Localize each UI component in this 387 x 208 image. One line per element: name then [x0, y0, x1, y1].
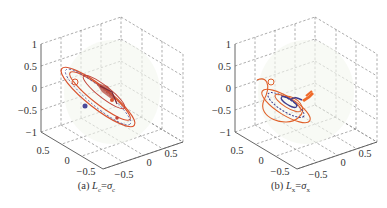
- svg-text:0: 0: [226, 83, 231, 94]
- svg-text:−0.5: −0.5: [270, 166, 289, 177]
- svg-text:0: 0: [340, 157, 345, 168]
- x-axis-ticks: 0.5 0 −0.5: [36, 145, 95, 177]
- y-axis-ticks: −0.5 0 0.5: [308, 148, 371, 180]
- svg-text:1: 1: [32, 39, 37, 50]
- x-axis-ticks: 0.5 0 −0.5: [230, 145, 289, 177]
- svg-text:−0.5: −0.5: [18, 105, 37, 116]
- svg-text:0.5: 0.5: [164, 148, 177, 159]
- svg-text:0.5: 0.5: [230, 145, 243, 156]
- z-axis-ticks: 1 0.5 0 −0.5 −1: [18, 39, 37, 138]
- svg-text:−0.5: −0.5: [308, 169, 327, 180]
- plot-3d-a: 1 0.5 0 −0.5 −1 0.5 0 −0.5 −0.5 0 0.5: [0, 0, 193, 180]
- z-axis-ticks: 1 0.5 0 −0.5 −1: [212, 39, 231, 138]
- svg-text:0.5: 0.5: [36, 145, 49, 156]
- caption-a: (a) Lc=σc: [0, 180, 193, 194]
- svg-text:−1: −1: [26, 127, 37, 138]
- sphere-shade: [258, 40, 354, 144]
- svg-text:−0.5: −0.5: [76, 166, 95, 177]
- svg-text:0: 0: [146, 157, 151, 168]
- svg-text:0: 0: [258, 155, 263, 166]
- svg-text:1: 1: [226, 39, 231, 50]
- svg-text:−0.5: −0.5: [114, 169, 133, 180]
- svg-text:0: 0: [64, 155, 69, 166]
- svg-text:0.5: 0.5: [218, 61, 231, 72]
- chart-panel-a: 1 0.5 0 −0.5 −1 0.5 0 −0.5 −0.5 0 0.5 (a…: [0, 0, 193, 208]
- svg-text:0.5: 0.5: [24, 61, 37, 72]
- svg-text:−0.5: −0.5: [212, 105, 231, 116]
- svg-text:−1: −1: [220, 127, 231, 138]
- svg-text:0.5: 0.5: [358, 148, 371, 159]
- plot-3d-b: 1 0.5 0 −0.5 −1 0.5 0 −0.5 −0.5 0 0.5: [194, 0, 387, 180]
- caption-b: (b) Lx=σx: [194, 180, 387, 194]
- y-axis-ticks: −0.5 0 0.5: [114, 148, 177, 180]
- svg-text:0: 0: [32, 83, 37, 94]
- chart-panel-b: 1 0.5 0 −0.5 −1 0.5 0 −0.5 −0.5 0 0.5 (b…: [194, 0, 387, 208]
